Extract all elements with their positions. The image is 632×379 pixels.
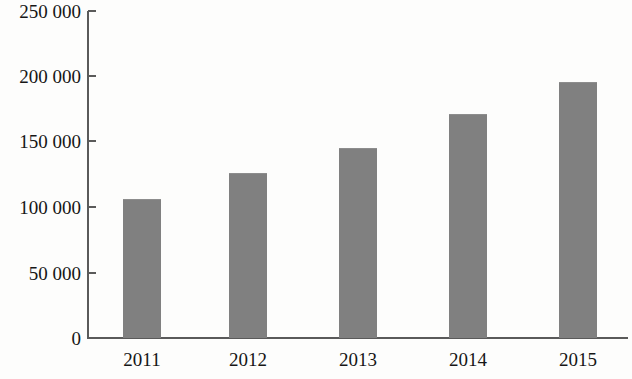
- y-axis-label-text: 50 000: [1, 264, 81, 283]
- y-axis-label-50000: 50 000: [0, 264, 81, 283]
- y-axis-tick: [88, 10, 96, 12]
- x-axis-label-2015: 2015: [533, 348, 623, 372]
- y-axis-label-text: 250 000: [1, 2, 81, 21]
- y-axis-tick: [88, 140, 96, 142]
- y-axis-tick: [88, 206, 96, 208]
- y-axis-tick: [88, 337, 96, 339]
- y-axis-label-text: 200 000: [1, 67, 81, 86]
- x-axis-label-2013: 2013: [313, 348, 403, 372]
- y-axis-label-text: 100 000: [1, 198, 81, 217]
- y-axis-label-200000: 200 000: [0, 67, 81, 86]
- x-axis-label-2012: 2012: [203, 348, 293, 372]
- y-axis-label-150000: 150 000: [0, 132, 81, 151]
- y-axis-tick: [88, 272, 96, 274]
- y-axis-line: [87, 11, 89, 339]
- bar-2013: [339, 148, 377, 338]
- bar-2011: [123, 199, 161, 338]
- bar-2012: [229, 173, 267, 338]
- y-axis-label-text: 0: [1, 329, 81, 348]
- x-axis-label-2014: 2014: [423, 348, 513, 372]
- bar-chart: 250 000 200 000 150 000 100 000 50 000 0…: [0, 0, 632, 379]
- y-axis-label-text: 150 000: [1, 132, 81, 151]
- y-axis-label-0: 0: [0, 329, 81, 348]
- bar-2015: [559, 82, 597, 338]
- x-axis-label-2011: 2011: [97, 348, 187, 372]
- y-axis-label-100000: 100 000: [0, 198, 81, 217]
- bar-2014: [449, 114, 487, 338]
- y-axis-label-250000: 250 000: [0, 2, 81, 21]
- y-axis-tick: [88, 75, 96, 77]
